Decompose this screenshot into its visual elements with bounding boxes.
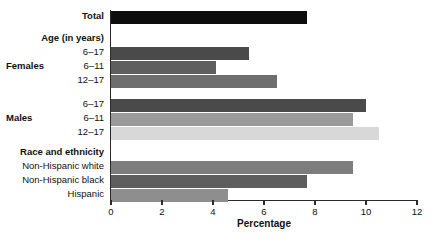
row-label-males-12-17: 12–17 bbox=[78, 127, 104, 137]
x-tick-10 bbox=[365, 200, 366, 205]
section-header-age: Age (in years) bbox=[41, 33, 104, 43]
bar-males-6-11 bbox=[111, 113, 353, 126]
bar-females-6-17 bbox=[111, 47, 249, 60]
x-tick-label-8: 8 bbox=[312, 206, 317, 217]
bar-females-6-11 bbox=[111, 61, 216, 74]
x-tick-8 bbox=[314, 200, 315, 205]
x-tick-6 bbox=[263, 200, 264, 205]
x-tick-4 bbox=[212, 200, 213, 205]
bar-females-12-17 bbox=[111, 75, 277, 88]
section-header-race: Race and ethnicity bbox=[20, 147, 104, 157]
row-label-females-12-17: 12–17 bbox=[78, 75, 104, 85]
x-tick-2 bbox=[161, 200, 162, 205]
group-label-males: Males bbox=[6, 113, 32, 123]
bar-non-hispanic-black bbox=[111, 175, 307, 188]
row-label-females-6-11: 6–11 bbox=[84, 61, 104, 71]
x-tick-label-10: 10 bbox=[361, 206, 372, 217]
x-tick-12 bbox=[416, 200, 417, 205]
row-label-total: Total bbox=[82, 11, 104, 21]
category-label-column: Total Age (in years) 6–17 6–11 12–17 Fem… bbox=[0, 0, 108, 239]
x-tick-label-4: 4 bbox=[210, 206, 215, 217]
x-tick-0 bbox=[110, 200, 111, 205]
bar-chart: Total Age (in years) 6–17 6–11 12–17 Fem… bbox=[0, 0, 437, 239]
row-label-females-6-17: 6–17 bbox=[83, 47, 104, 57]
x-tick-label-2: 2 bbox=[159, 206, 164, 217]
row-label-males-6-11: 6–11 bbox=[84, 113, 104, 123]
bar-total bbox=[111, 11, 307, 24]
x-tick-label-6: 6 bbox=[261, 206, 266, 217]
bar-males-12-17 bbox=[111, 127, 379, 140]
x-axis-title: Percentage bbox=[111, 218, 417, 229]
bar-non-hispanic-white bbox=[111, 161, 353, 174]
row-label-non-hispanic-white: Non-Hispanic white bbox=[22, 161, 104, 171]
group-label-females: Females bbox=[6, 61, 44, 71]
row-label-males-6-17: 6–17 bbox=[83, 99, 104, 109]
row-label-hispanic: Hispanic bbox=[68, 189, 104, 199]
x-tick-label-12: 12 bbox=[412, 206, 423, 217]
bar-males-6-17 bbox=[111, 99, 366, 112]
bar-hispanic bbox=[111, 189, 228, 202]
plot-area: 0 2 4 6 8 10 12 bbox=[111, 10, 417, 200]
row-label-non-hispanic-black: Non-Hispanic black bbox=[22, 175, 104, 185]
x-tick-label-0: 0 bbox=[108, 206, 113, 217]
